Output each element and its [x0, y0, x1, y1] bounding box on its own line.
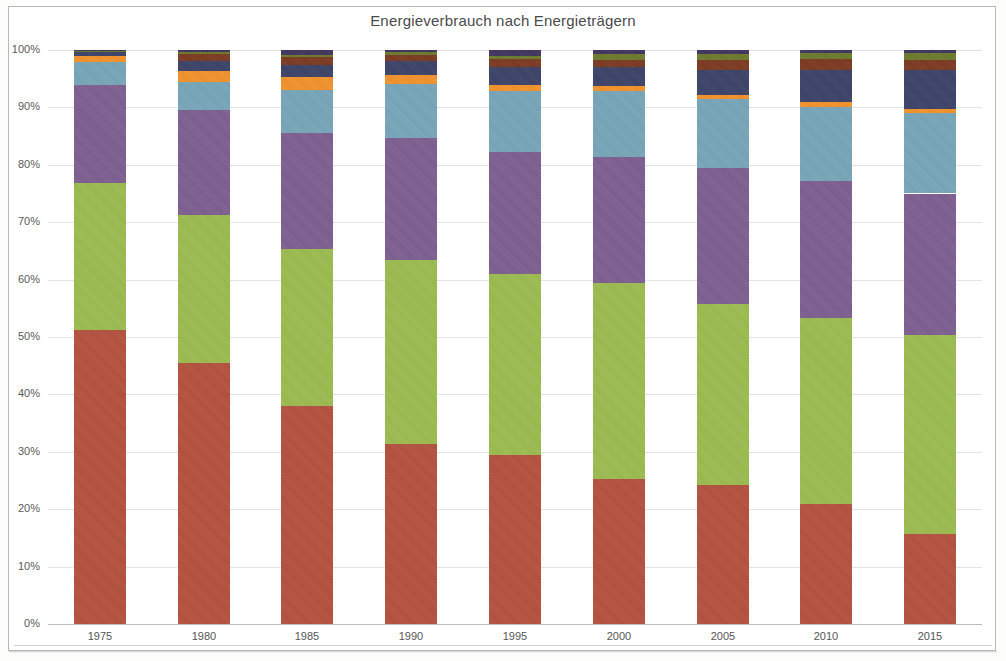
bar-segment[interactable] — [178, 82, 230, 110]
bar-segment[interactable] — [281, 57, 333, 64]
chart-title: Energieverbrauch nach Energieträgern — [0, 12, 1006, 29]
y-axis-labels: 0%10%20%30%40%50%60%70%80%90%100% — [0, 50, 44, 624]
bar-segment[interactable] — [697, 304, 749, 484]
bar-segment[interactable] — [800, 107, 852, 181]
bar-segment[interactable] — [800, 53, 852, 59]
bar-segment[interactable] — [74, 85, 126, 183]
bar-segment[interactable] — [904, 534, 956, 624]
bar-segment[interactable] — [904, 70, 956, 109]
bar-segment[interactable] — [281, 249, 333, 407]
bar-segment[interactable] — [489, 455, 541, 624]
bar-segment[interactable] — [593, 67, 645, 85]
bar-segment[interactable] — [489, 152, 541, 275]
bar-segment[interactable] — [800, 50, 852, 53]
bar-segment[interactable] — [593, 91, 645, 157]
bar-segment[interactable] — [489, 274, 541, 454]
bar-segment[interactable] — [281, 55, 333, 58]
bar-segment[interactable] — [385, 50, 437, 52]
bar-segment[interactable] — [593, 60, 645, 67]
bar-segment[interactable] — [697, 168, 749, 304]
bar-1975[interactable] — [74, 50, 126, 624]
bar-segment[interactable] — [74, 51, 126, 52]
bar-segment[interactable] — [489, 56, 541, 59]
bar-segment[interactable] — [385, 84, 437, 138]
bar-segment[interactable] — [74, 50, 126, 51]
bar-segment[interactable] — [178, 215, 230, 363]
bar-segment[interactable] — [178, 363, 230, 624]
bar-2015[interactable] — [904, 50, 956, 624]
bar-segment[interactable] — [697, 54, 749, 60]
y-tick-label: 80% — [18, 158, 40, 170]
bar-2005[interactable] — [697, 50, 749, 624]
bar-1980[interactable] — [178, 50, 230, 624]
bar-segment[interactable] — [489, 91, 541, 151]
bar-segment[interactable] — [74, 330, 126, 624]
x-tick-label: 1990 — [371, 630, 451, 642]
bar-segment[interactable] — [281, 90, 333, 133]
x-axis-labels: 197519801985199019952000200520102015 — [48, 630, 982, 654]
bar-segment[interactable] — [800, 318, 852, 504]
bar-segment[interactable] — [904, 60, 956, 70]
bar-1985[interactable] — [281, 50, 333, 624]
bar-segment[interactable] — [178, 110, 230, 216]
bar-segment[interactable] — [904, 109, 956, 113]
bar-segment[interactable] — [74, 51, 126, 52]
y-tick-label: 30% — [18, 445, 40, 457]
bar-segment[interactable] — [178, 50, 230, 52]
bar-segment[interactable] — [697, 95, 749, 99]
bar-segment[interactable] — [178, 52, 230, 54]
bar-segment[interactable] — [281, 65, 333, 77]
y-tick-label: 10% — [18, 560, 40, 572]
bar-segment[interactable] — [593, 86, 645, 91]
bar-2000[interactable] — [593, 50, 645, 624]
bar-segment[interactable] — [178, 54, 230, 61]
bar-segment[interactable] — [385, 75, 437, 84]
bar-segment[interactable] — [385, 138, 437, 260]
bar-segment[interactable] — [904, 335, 956, 534]
bar-segment[interactable] — [178, 61, 230, 71]
bar-segment[interactable] — [697, 70, 749, 95]
bar-segment[interactable] — [593, 157, 645, 283]
bar-segment[interactable] — [800, 70, 852, 103]
bar-segment[interactable] — [697, 99, 749, 168]
bar-segment[interactable] — [385, 260, 437, 444]
y-tick-label: 40% — [18, 387, 40, 399]
bar-segment[interactable] — [904, 113, 956, 193]
bar-segment[interactable] — [904, 194, 956, 336]
bar-segment[interactable] — [74, 56, 126, 62]
bar-segment[interactable] — [697, 60, 749, 70]
bar-segment[interactable] — [281, 77, 333, 90]
bar-segment[interactable] — [593, 479, 645, 624]
bar-segment[interactable] — [489, 67, 541, 85]
x-tick-label: 1980 — [164, 630, 244, 642]
bar-segment[interactable] — [385, 61, 437, 75]
bar-segment[interactable] — [489, 85, 541, 91]
bar-segment[interactable] — [385, 444, 437, 624]
bar-segment[interactable] — [800, 59, 852, 69]
bar-segment[interactable] — [281, 406, 333, 624]
bar-segment[interactable] — [593, 54, 645, 60]
bar-segment[interactable] — [281, 50, 333, 55]
bar-segment[interactable] — [74, 52, 126, 56]
bar-segment[interactable] — [904, 50, 956, 53]
bar-segment[interactable] — [178, 71, 230, 81]
bar-2010[interactable] — [800, 50, 852, 624]
bar-segment[interactable] — [489, 59, 541, 67]
bar-segment[interactable] — [697, 50, 749, 54]
bar-segment[interactable] — [697, 485, 749, 624]
bar-segment[interactable] — [281, 133, 333, 249]
bar-segment[interactable] — [800, 102, 852, 107]
bar-segment[interactable] — [593, 50, 645, 54]
bar-segment[interactable] — [800, 504, 852, 624]
bar-segment[interactable] — [385, 52, 437, 55]
bar-segment[interactable] — [74, 62, 126, 85]
bar-segment[interactable] — [385, 55, 437, 62]
bar-segment[interactable] — [74, 183, 126, 329]
bar-segment[interactable] — [800, 181, 852, 318]
bar-segments — [904, 50, 956, 624]
bar-segment[interactable] — [593, 283, 645, 479]
bar-segment[interactable] — [904, 53, 956, 59]
bar-1995[interactable] — [489, 50, 541, 624]
bar-segment[interactable] — [489, 50, 541, 56]
bar-1990[interactable] — [385, 50, 437, 624]
